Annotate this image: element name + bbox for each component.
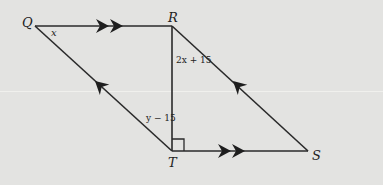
vertex-label-t: T bbox=[168, 156, 177, 169]
diagram-figure bbox=[0, 0, 383, 185]
angle-label-t: y − 15 bbox=[146, 114, 176, 123]
vertex-label-s: S bbox=[312, 149, 321, 162]
segment-qt bbox=[35, 26, 172, 151]
vertex-label-r: R bbox=[168, 11, 178, 24]
right-angle-marker bbox=[172, 139, 184, 151]
segment-rs bbox=[172, 26, 308, 151]
parallelogram-diagram: Q R S T x 2x + 15 y − 15 bbox=[0, 0, 383, 185]
angle-label-r: 2x + 15 bbox=[176, 56, 212, 65]
angle-label-q: x bbox=[51, 28, 57, 38]
vertex-label-q: Q bbox=[22, 16, 33, 29]
